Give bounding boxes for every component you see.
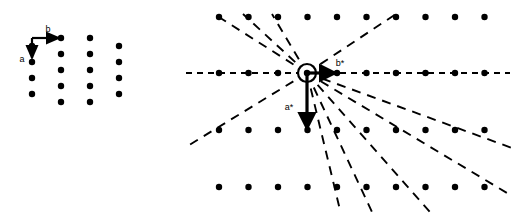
reciprocal-lattice-point [363, 127, 369, 133]
lattice-point [87, 83, 93, 89]
reciprocal-lattice-point [481, 127, 487, 133]
reciprocal-lattice-point [481, 184, 487, 190]
reciprocal-lattice-point [245, 14, 251, 20]
lattice-point [29, 59, 35, 65]
lattice-point [87, 51, 93, 57]
reciprocal-lattice-point [422, 70, 428, 76]
reciprocal-lattice-point [216, 14, 222, 20]
lattice-point [58, 51, 64, 57]
reciprocal-lattice-point [393, 70, 399, 76]
vector-b-star-label: b* [336, 58, 345, 68]
reciprocal-lattice-point [363, 14, 369, 20]
reciprocal-lattice-point [422, 127, 428, 133]
reciprocal-lattice-point [393, 14, 399, 20]
reciprocal-lattice-point [334, 127, 340, 133]
reciprocal-lattice-point [422, 14, 428, 20]
lattice-point [29, 91, 35, 97]
lattice-point [116, 91, 122, 97]
crystallography-figure: ab a*b* [0, 0, 517, 222]
lattice-point [58, 99, 64, 105]
figure-canvas: ab a*b* [0, 0, 517, 222]
reciprocal-lattice-point [245, 184, 251, 190]
vector-a-label: a [19, 54, 24, 64]
reciprocal-lattice-point [422, 184, 428, 190]
reciprocal-lattice-point [452, 184, 458, 190]
reciprocal-zone-lines [186, 14, 512, 212]
reciprocal-lattice-point [363, 184, 369, 190]
reciprocal-lattice-point [481, 70, 487, 76]
reciprocal-lattice-point [275, 70, 281, 76]
zone-line-upleft-1 [214, 14, 307, 73]
reciprocal-lattice-point [216, 70, 222, 76]
reciprocal-lattice-point [334, 184, 340, 190]
direct-lattice-vectors: ab [19, 24, 59, 64]
reciprocal-lattice-point [275, 127, 281, 133]
lattice-point [116, 75, 122, 81]
reciprocal-lattice [216, 14, 488, 190]
reciprocal-lattice-point [452, 70, 458, 76]
zone-line-downright-2 [307, 73, 372, 212]
reciprocal-lattice-point [452, 14, 458, 20]
reciprocal-lattice-point [363, 70, 369, 76]
lattice-point [87, 35, 93, 41]
zone-line-upright-1 [307, 14, 396, 73]
zone-line-upleft-3 [272, 14, 307, 73]
reciprocal-lattice-point [275, 14, 281, 20]
lattice-point [58, 67, 64, 73]
reciprocal-lattice-point [245, 70, 251, 76]
reciprocal-lattice-point [216, 127, 222, 133]
lattice-point [87, 99, 93, 105]
reciprocal-lattice-point [304, 184, 310, 190]
lattice-point [58, 83, 64, 89]
zone-line-downright-3 [307, 73, 430, 212]
zone-line-upleft-2 [243, 14, 307, 73]
reciprocal-lattice-point [393, 184, 399, 190]
lattice-point [116, 43, 122, 49]
lattice-point [116, 59, 122, 65]
reciprocal-lattice-point [304, 14, 310, 20]
reciprocal-lattice-point [393, 127, 399, 133]
reciprocal-lattice-point [334, 14, 340, 20]
reciprocal-lattice-point [216, 184, 222, 190]
reciprocal-lattice-point [481, 14, 487, 20]
zone-line-downright-4 [307, 73, 512, 196]
lattice-point [87, 67, 93, 73]
vector-a-star-label: a* [285, 102, 294, 112]
reciprocal-lattice-point [452, 127, 458, 133]
reciprocal-lattice-point [245, 127, 251, 133]
reciprocal-lattice-point [275, 184, 281, 190]
lattice-point [29, 75, 35, 81]
direct-lattice [29, 35, 122, 105]
vector-b-label: b [45, 24, 50, 34]
